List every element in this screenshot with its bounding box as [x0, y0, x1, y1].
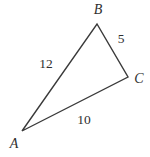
triangle-figure: B C A 12 5 10	[0, 0, 150, 157]
vertex-label-c: C	[134, 71, 144, 86]
side-label-ac: 10	[77, 112, 91, 127]
triangle-canvas: B C A 12 5 10	[0, 0, 150, 157]
triangle-outline	[22, 24, 128, 131]
side-label-bc: 5	[118, 31, 125, 46]
vertex-label-b: B	[94, 2, 103, 17]
vertex-label-a: A	[9, 136, 19, 151]
side-label-ab: 12	[39, 56, 53, 71]
